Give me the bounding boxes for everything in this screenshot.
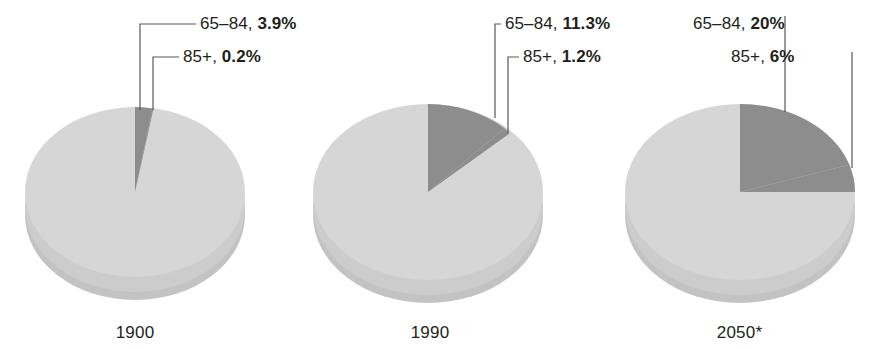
callout-85plus-1990: 85+, 1.2% xyxy=(523,47,601,67)
pie-chart-figure: 65–84, 3.9% 85+, 0.2% 1900 xyxy=(0,0,879,349)
callout-65-84-2050-label: 65–84, xyxy=(693,14,750,33)
year-label-1900: 1900 xyxy=(0,323,280,343)
callout-65-84-1990: 65–84, 11.3% xyxy=(505,14,610,34)
leader-line-65-84-1990 xyxy=(495,24,501,118)
callout-85plus-2050-value: 6% xyxy=(770,47,795,66)
pie-chart-2050: 65–84, 20% 85+, 6% 2050* xyxy=(600,0,879,349)
callout-85plus-1900: 85+, 0.2% xyxy=(183,47,261,67)
callout-85plus-2050-label: 85+, xyxy=(731,47,770,66)
leader-line-85plus-1990 xyxy=(508,57,519,133)
callout-65-84-1900-value: 3.9% xyxy=(257,14,296,33)
pie-chart-1900: 65–84, 3.9% 85+, 0.2% 1900 xyxy=(0,0,290,349)
callout-85plus-1990-value: 1.2% xyxy=(562,47,601,66)
year-label-2050: 2050* xyxy=(600,323,879,343)
callout-85plus-1990-label: 85+, xyxy=(523,47,562,66)
year-label-1990: 1990 xyxy=(285,323,575,343)
callout-85plus-1900-label: 85+, xyxy=(183,47,222,66)
callout-65-84-2050-value: 20% xyxy=(750,14,784,33)
callout-65-84-2050: 65–84, 20% xyxy=(693,14,785,34)
callout-65-84-1900-label: 65–84, xyxy=(200,14,257,33)
leader-line-65-84-1900 xyxy=(140,24,196,110)
callout-65-84-1900: 65–84, 3.9% xyxy=(200,14,297,34)
callout-85plus-1900-value: 0.2% xyxy=(222,47,261,66)
callout-85plus-2050: 85+, 6% xyxy=(731,47,795,67)
leader-line-85plus-1900 xyxy=(153,57,179,110)
pie-chart-1990: 65–84, 11.3% 85+, 1.2% 1990 xyxy=(295,0,585,349)
callout-65-84-1990-label: 65–84, xyxy=(505,14,562,33)
